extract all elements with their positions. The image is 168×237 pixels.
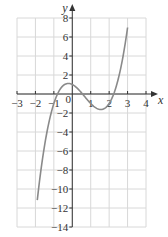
y-tick-label: −14: [51, 221, 69, 233]
x-tick-label: 3: [125, 97, 131, 109]
y-tick-label: −4: [57, 126, 69, 138]
y-tick-label: 6: [63, 31, 69, 43]
x-axis-arrow-icon: [151, 91, 158, 97]
x-tick-label: −2: [30, 97, 42, 109]
grid-lines: [17, 18, 146, 227]
tick-labels: −3−2−1012348642−2−4−6−8−10−12−14: [11, 12, 149, 233]
y-axis-arrow-icon: [69, 4, 75, 11]
x-tick-label: 0: [66, 93, 72, 105]
y-tick-label: −12: [51, 202, 68, 214]
x-tick-label: −3: [11, 97, 23, 109]
y-tick-label: −8: [57, 164, 69, 176]
x-tick-label: 4: [143, 97, 149, 109]
y-axis-label: y: [61, 1, 68, 15]
y-tick-label: 2: [63, 69, 69, 81]
y-tick-label: −6: [57, 145, 69, 157]
x-axis-label: x: [157, 93, 164, 107]
function-curve: [37, 28, 127, 201]
y-tick-label: −2: [57, 107, 69, 119]
cubic-graph: −3−2−1012348642−2−4−6−8−10−12−14 x y: [0, 0, 168, 237]
y-tick-label: 4: [63, 50, 69, 62]
y-tick-label: −10: [51, 183, 69, 195]
